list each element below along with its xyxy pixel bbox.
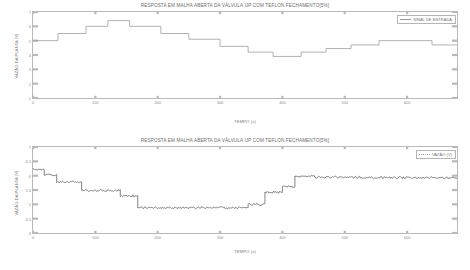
y-tick-label: 5 <box>29 38 31 43</box>
y-tick-label: 7 <box>29 145 31 150</box>
y-tick-label: 4 <box>29 53 31 58</box>
chart-plant-output: RESPOSTA EM MALHA ABERTA DA VÁLVULA IJP … <box>0 135 470 270</box>
x-tick-label: 300 <box>217 100 224 105</box>
y-axis-label-1: VAZÃO DA PLANTA (V) <box>14 10 19 102</box>
y-axis-label-2: VAZÃO DA PLANTA (V) <box>14 147 19 239</box>
chart-input-signal: RESPOSTA EM MALHA ABERTA DA VÁLVULA IJP … <box>0 0 470 135</box>
legend-line-swatch-icon <box>400 19 411 20</box>
x-tick-label: 0 <box>32 235 34 240</box>
y-tick-label: 3 <box>29 67 31 72</box>
y-tick-label: 6 <box>29 173 31 178</box>
y-tick-label: 7 <box>29 10 31 15</box>
plot-area-2: 44.555.566.57 0100200300400500600 <box>32 146 458 234</box>
legend-label-1: SINAL DE ENTRADA <box>413 17 452 22</box>
x-tick-label: 400 <box>279 100 286 105</box>
y-tick-label: 6.5 <box>26 159 31 164</box>
x-tick-label: 200 <box>154 100 161 105</box>
data-series-line <box>33 21 457 57</box>
x-axis-label-1: TEMPO (s) <box>32 119 458 124</box>
x-tick-label: 300 <box>217 235 224 240</box>
data-series-line <box>33 169 457 209</box>
x-tick-label: 600 <box>404 100 411 105</box>
legend-1: SINAL DE ENTRADA <box>397 15 456 24</box>
x-tick-label: 200 <box>154 235 161 240</box>
y-tick-label: 2 <box>29 81 31 86</box>
plot-canvas-2 <box>33 147 457 233</box>
y-tick-label: 6 <box>29 24 31 29</box>
x-tick-label: 500 <box>342 235 349 240</box>
plot-canvas-1 <box>33 12 457 98</box>
x-tick-label: 100 <box>92 100 99 105</box>
chart-title-2: RESPOSTA EM MALHA ABERTA DA VÁLVULA IJP … <box>0 138 470 143</box>
x-tick-label: 600 <box>404 235 411 240</box>
plot-area-1: 1234567 0100200300400500600 <box>32 11 458 99</box>
y-tick-label: 5.5 <box>26 188 31 193</box>
x-axis-label-2: TEMPO (s) <box>32 249 458 254</box>
legend-2: VAZÃO (V) <box>416 150 456 159</box>
y-tick-label: 4.5 <box>26 216 31 221</box>
x-tick-label: 400 <box>279 235 286 240</box>
x-tick-label: 500 <box>342 100 349 105</box>
legend-line-swatch-icon <box>419 154 430 155</box>
figure-page: RESPOSTA EM MALHA ABERTA DA VÁLVULA IJP … <box>0 0 470 270</box>
y-tick-label: 4 <box>29 231 31 236</box>
x-tick-label: 0 <box>32 100 34 105</box>
y-tick-label: 5 <box>29 202 31 207</box>
chart-title-1: RESPOSTA EM MALHA ABERTA DA VÁLVULA IJP … <box>0 3 470 8</box>
y-tick-label: 1 <box>29 96 31 101</box>
x-tick-label: 100 <box>92 235 99 240</box>
legend-label-2: VAZÃO (V) <box>432 152 452 157</box>
